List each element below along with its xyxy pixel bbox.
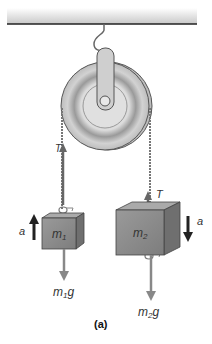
tension-label-right: T bbox=[156, 188, 164, 200]
accel-label-right: a bbox=[197, 215, 203, 227]
accel-arrow-up bbox=[29, 214, 39, 240]
weight-label-m1: m1g bbox=[53, 285, 74, 300]
weight-label-m2: m2g bbox=[138, 305, 159, 320]
hook-icon bbox=[94, 24, 104, 50]
block-m2 bbox=[116, 202, 180, 255]
atwood-machine-diagram: T T m1 a m1g m2 a bbox=[0, 0, 212, 344]
accel-arrow-down bbox=[183, 216, 193, 242]
block-m1 bbox=[42, 213, 84, 249]
accel-label-left: a bbox=[19, 225, 25, 237]
weight-arrow-m1 bbox=[59, 249, 69, 281]
pulley bbox=[61, 48, 152, 150]
tension-label-left: T bbox=[55, 143, 62, 154]
figure-caption: (a) bbox=[94, 318, 108, 330]
weight-arrow-m2 bbox=[146, 255, 156, 301]
ceiling bbox=[7, 8, 197, 24]
